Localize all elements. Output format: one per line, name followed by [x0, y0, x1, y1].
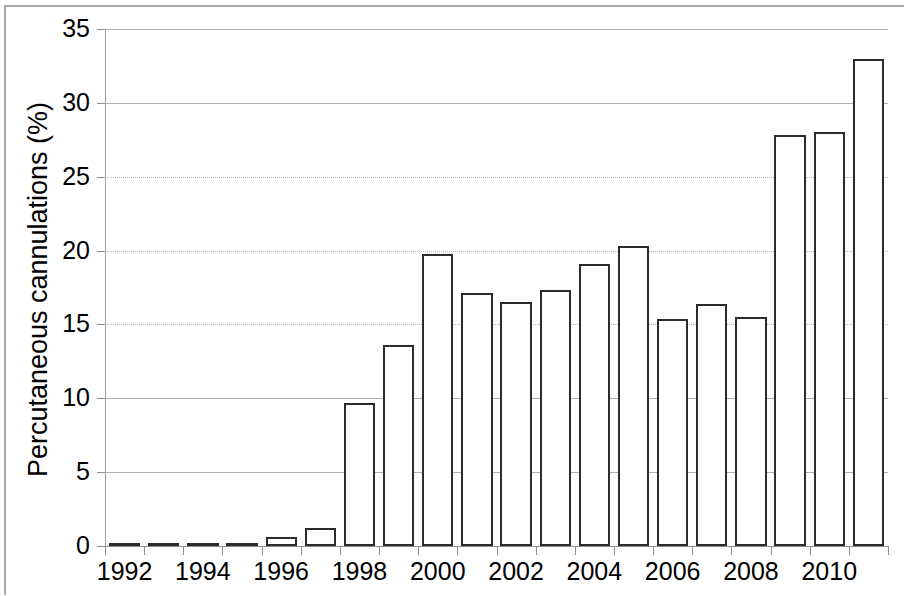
gridline [105, 324, 888, 325]
x-tick-label: 2000 [393, 558, 483, 586]
x-tick-mark [536, 546, 537, 555]
x-tick-mark [418, 546, 419, 555]
x-tick-mark [653, 546, 654, 555]
bar-2006 [657, 319, 688, 546]
bar-2010 [814, 132, 845, 546]
x-tick-mark [379, 546, 380, 555]
x-tick-label: 1992 [80, 558, 170, 586]
bar-2007 [696, 304, 727, 546]
gridline [105, 398, 888, 399]
bar-2005 [618, 246, 649, 546]
x-tick-mark [849, 546, 850, 555]
x-tick-mark [497, 546, 498, 555]
bar-1999 [383, 345, 414, 546]
bar-2011 [853, 59, 884, 546]
x-tick-label: 2004 [549, 558, 639, 586]
x-tick-mark [731, 546, 732, 555]
x-tick-mark [810, 546, 811, 555]
plot-area [105, 29, 888, 546]
gridline [105, 472, 888, 473]
y-tick-label: 35 [44, 16, 90, 41]
bar-2008 [735, 317, 766, 546]
x-tick-mark [614, 546, 615, 555]
y-tick-label: 10 [44, 385, 90, 410]
bar-1997 [305, 528, 336, 546]
bar-2001 [461, 293, 492, 546]
x-tick-mark [771, 546, 772, 555]
x-tick-mark [301, 546, 302, 555]
x-tick-mark [222, 546, 223, 555]
bar-2009 [774, 135, 805, 546]
gridline [105, 177, 888, 178]
y-tick-label: 25 [44, 164, 90, 189]
x-tick-label: 1998 [314, 558, 404, 586]
x-tick-mark [183, 546, 184, 555]
x-tick-label: 2008 [706, 558, 796, 586]
x-tick-mark [262, 546, 263, 555]
gridline [105, 29, 888, 30]
y-tick-label: 15 [44, 311, 90, 336]
x-tick-label: 1994 [158, 558, 248, 586]
bar-2000 [422, 254, 453, 546]
x-tick-label: 1996 [236, 558, 326, 586]
y-tick-label: 20 [44, 238, 90, 263]
x-tick-mark [105, 546, 106, 555]
bar-2002 [500, 302, 531, 546]
x-tick-mark [692, 546, 693, 555]
chart-figure: Percutaneous cannulations (%) 0510152025… [0, 0, 906, 596]
gridline [105, 103, 888, 104]
x-tick-mark [144, 546, 145, 555]
bar-1996 [266, 537, 297, 546]
x-tick-label: 2002 [471, 558, 561, 586]
bar-1998 [344, 403, 375, 546]
bar-2004 [579, 264, 610, 546]
y-tick-label: 5 [44, 459, 90, 484]
y-tick-label: 0 [44, 533, 90, 558]
x-tick-mark [888, 546, 889, 555]
x-tick-mark [575, 546, 576, 555]
x-tick-mark [340, 546, 341, 555]
y-tick-label: 30 [44, 90, 90, 115]
x-tick-mark [457, 546, 458, 555]
x-tick-label: 2010 [784, 558, 874, 586]
gridline [105, 251, 888, 252]
x-tick-label: 2006 [628, 558, 718, 586]
bar-2003 [540, 290, 571, 546]
